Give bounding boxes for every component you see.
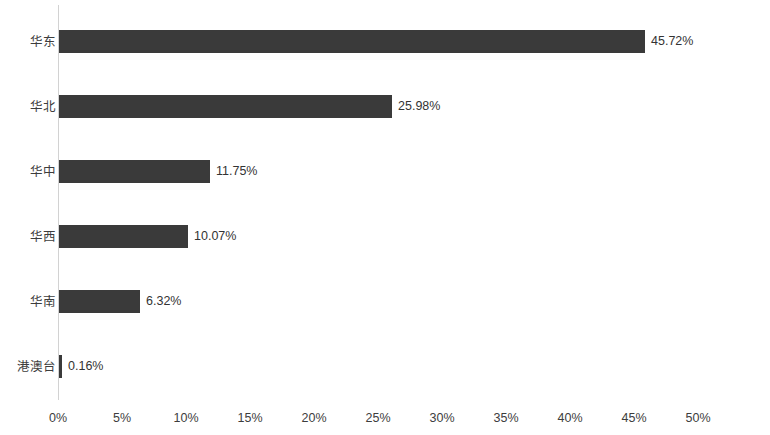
x-tick-label: 40% (540, 411, 600, 425)
category-label: 华西 (0, 225, 56, 249)
value-label: 0.16% (62, 355, 103, 378)
x-tick-label: 35% (476, 411, 536, 425)
bar-chart: 华东 45.72% 华北 25.98% 华中 11.75% 华西 10.07% … (0, 0, 770, 435)
bar-segment[interactable] (59, 225, 188, 248)
x-tick-label: 20% (284, 411, 344, 425)
plot-area: 华东 45.72% 华北 25.98% 华中 11.75% 华西 10.07% … (0, 0, 770, 405)
bar-segment[interactable] (59, 290, 140, 313)
x-tick-label: 45% (604, 411, 664, 425)
x-tick-label: 25% (348, 411, 408, 425)
category-label: 港澳台 (0, 355, 56, 379)
bar-segment[interactable] (59, 160, 210, 183)
value-label: 10.07% (188, 225, 236, 248)
x-axis: 0% 5% 10% 15% 20% 25% 30% 35% 40% 45% 50… (0, 405, 770, 435)
bar-row: 华中 11.75% (0, 160, 770, 184)
x-tick-label: 30% (412, 411, 472, 425)
category-label: 华北 (0, 95, 56, 119)
x-tick-label: 5% (92, 411, 152, 425)
x-tick-label: 50% (668, 411, 728, 425)
bar-segment[interactable] (59, 95, 392, 118)
value-label: 11.75% (210, 160, 257, 183)
x-tick-label: 0% (28, 411, 88, 425)
value-label: 25.98% (392, 95, 440, 118)
value-label: 6.32% (140, 290, 181, 313)
bar-row: 华西 10.07% (0, 225, 770, 249)
bar-row: 华北 25.98% (0, 95, 770, 119)
value-label: 45.72% (645, 30, 693, 53)
category-label: 华东 (0, 30, 56, 54)
x-tick-label: 10% (156, 411, 216, 425)
y-axis-line (58, 5, 59, 400)
bar-row: 华南 6.32% (0, 290, 770, 314)
category-label: 华南 (0, 290, 56, 314)
bar-row: 华东 45.72% (0, 30, 770, 54)
category-label: 华中 (0, 160, 56, 184)
bar-row: 港澳台 0.16% (0, 355, 770, 379)
bar-segment[interactable] (59, 30, 645, 53)
x-tick-label: 15% (220, 411, 280, 425)
